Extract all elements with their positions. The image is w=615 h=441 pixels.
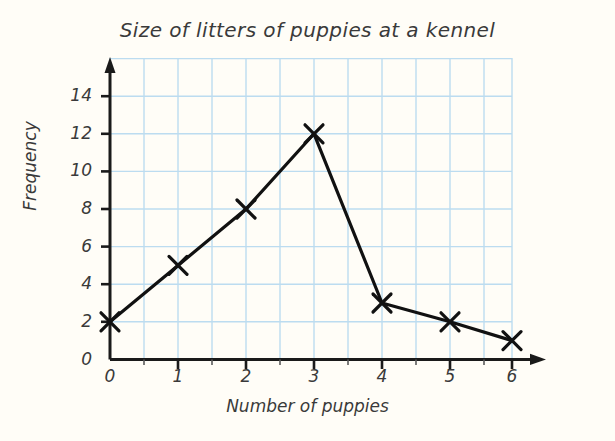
y-tick-label-8: 8 — [62, 198, 92, 218]
y-tick-label-0: 0 — [62, 349, 92, 369]
y-tick-label-12: 12 — [62, 123, 92, 143]
y-tick-label-6: 6 — [62, 236, 92, 256]
x-tick-label-3: 3 — [302, 366, 326, 386]
y-tick-label-10: 10 — [62, 160, 92, 180]
x-tick-label-0: 0 — [98, 366, 122, 386]
x-tick-label-2: 2 — [234, 366, 258, 386]
y-axis-label: Frequency — [20, 96, 40, 236]
y-tick-label-14: 14 — [62, 85, 92, 105]
y-tick-label-2: 2 — [62, 311, 92, 331]
y-tick-label-4: 4 — [62, 273, 92, 293]
x-axis-label: Number of puppies — [0, 396, 615, 416]
x-tick-label-6: 6 — [500, 366, 524, 386]
x-tick-label-1: 1 — [166, 366, 190, 386]
chart-container: Size of litters of puppies at a kennel — [0, 0, 615, 441]
x-tick-label-5: 5 — [438, 366, 462, 386]
x-tick-label-4: 4 — [370, 366, 394, 386]
